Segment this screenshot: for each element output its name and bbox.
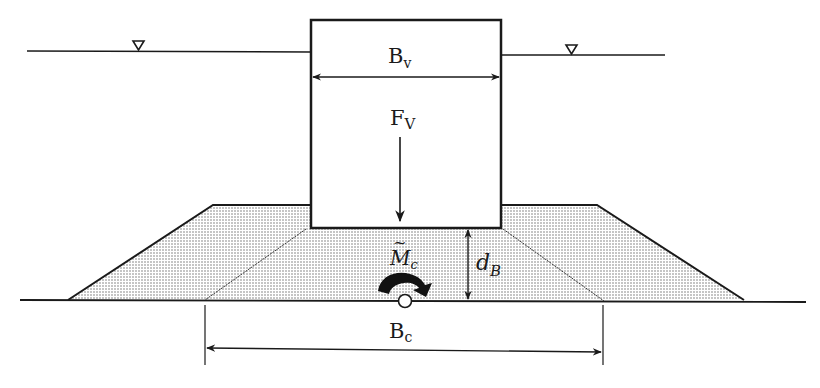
water-level-triangle-icon [566, 45, 577, 54]
moment-tilde: ~ [393, 233, 406, 252]
water-level-triangle-icon [133, 41, 144, 50]
hinge-circle-icon [399, 295, 412, 308]
base-width-label: Bc [389, 319, 412, 345]
double-arrow-icon [207, 348, 601, 352]
seabed-line [20, 300, 806, 302]
water-level-left [27, 41, 311, 52]
caisson-breakwater-diagram: Bv FV dB Mc ~ Bc [0, 0, 820, 388]
water-level-right [501, 45, 665, 55]
